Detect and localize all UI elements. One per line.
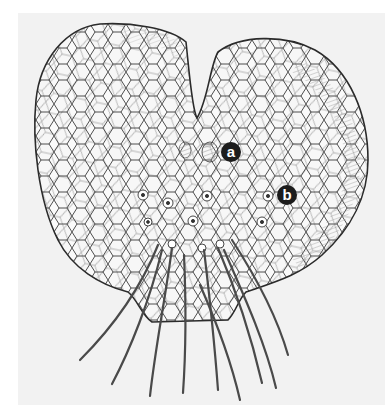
label-a: a (221, 142, 241, 162)
prothallus-drawing (0, 0, 391, 415)
label-b: b (277, 185, 297, 205)
